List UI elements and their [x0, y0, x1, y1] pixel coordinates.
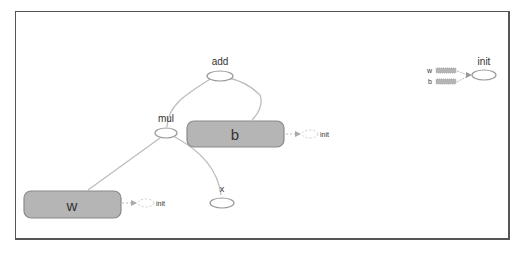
mul-op-ellipse[interactable] — [155, 128, 177, 138]
b-init-ghost-node[interactable] — [302, 130, 318, 138]
mul-label: mul — [158, 113, 174, 124]
b-label: b — [231, 126, 239, 143]
node-b[interactable]: b init — [187, 121, 329, 147]
node-w[interactable]: w init — [24, 191, 165, 218]
node-init[interactable]: init w b — [426, 56, 496, 85]
node-add[interactable]: add — [207, 56, 233, 81]
w-init-ghost-node[interactable] — [138, 199, 154, 207]
init-input-b-label: b — [428, 78, 432, 85]
init-input-w-label: w — [426, 67, 433, 74]
x-op-ellipse[interactable] — [210, 198, 234, 208]
x-label: x — [220, 184, 225, 194]
init-input-b-stub[interactable] — [436, 79, 456, 84]
w-init-label: init — [156, 200, 165, 207]
node-x[interactable]: x — [210, 184, 234, 208]
edge-w-mul — [88, 138, 160, 190]
add-label: add — [212, 56, 229, 67]
b-init-label: init — [320, 131, 329, 138]
init-arrowhead — [466, 72, 472, 78]
add-op-ellipse[interactable] — [207, 71, 233, 81]
init-op-ellipse[interactable] — [472, 70, 496, 80]
w-label: w — [66, 197, 78, 214]
node-mul[interactable]: mul — [155, 113, 177, 138]
graph-canvas[interactable]: add mul x b init w init init w b — [0, 0, 526, 253]
init-label: init — [478, 56, 491, 67]
edge-b-add — [228, 78, 261, 120]
init-input-w-stub[interactable] — [436, 68, 456, 73]
